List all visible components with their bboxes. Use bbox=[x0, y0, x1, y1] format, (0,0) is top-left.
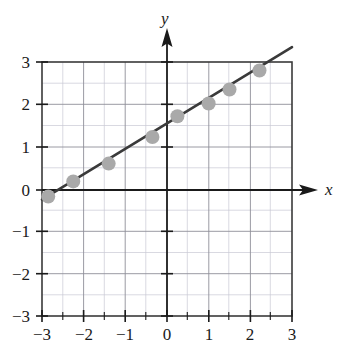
y-axis-label: y bbox=[161, 10, 169, 27]
data-point bbox=[253, 63, 267, 77]
chart-screenshot: 3 2 1 0 −1 −2 −3 −3 −2 −1 0 1 2 3 y x bbox=[0, 0, 344, 364]
x-tick-label-0: 0 bbox=[153, 326, 181, 343]
y-tick-label-1: 1 bbox=[8, 139, 30, 156]
x-tick-label-neg2: −2 bbox=[70, 326, 98, 343]
data-point bbox=[170, 109, 184, 123]
x-tick-label-neg1: −1 bbox=[111, 326, 139, 343]
scatter-plot-figure bbox=[0, 0, 344, 364]
x-tick-label-2: 2 bbox=[236, 326, 264, 343]
y-tick-label-2: 2 bbox=[8, 96, 30, 113]
data-point bbox=[102, 157, 116, 171]
x-tick-label-3: 3 bbox=[278, 326, 306, 343]
data-point bbox=[145, 130, 159, 144]
y-tick-label-neg2: −2 bbox=[2, 266, 30, 283]
y-tick-label-neg3: −3 bbox=[2, 308, 30, 325]
x-tick-label-1: 1 bbox=[195, 326, 223, 343]
data-point bbox=[223, 83, 237, 97]
data-point bbox=[41, 190, 55, 204]
data-point bbox=[66, 174, 80, 188]
x-tick-label-neg3: −3 bbox=[28, 326, 56, 343]
y-tick-label-neg1: −1 bbox=[2, 223, 30, 240]
data-point bbox=[202, 96, 216, 110]
y-tick-label-3: 3 bbox=[8, 54, 30, 71]
y-tick-label-0: 0 bbox=[8, 182, 30, 199]
x-axis-label: x bbox=[325, 181, 333, 198]
